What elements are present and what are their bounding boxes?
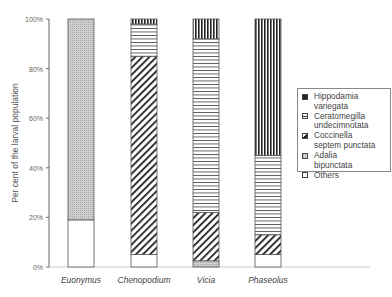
y-axis-title: Per cent of the larval population <box>10 83 20 203</box>
bar-segment <box>255 235 281 255</box>
bar-segment <box>193 212 219 260</box>
x-tick-label: Vicia <box>197 275 216 285</box>
legend-swatch-vertical-icon <box>302 94 308 100</box>
bar-segment <box>255 255 281 267</box>
y-tick-label: 100% <box>25 16 43 23</box>
legend-item: Others <box>302 171 388 181</box>
bar-vicia <box>193 19 219 267</box>
bar-euonymus <box>68 19 94 267</box>
x-tick-label: Phaseolus <box>248 275 288 285</box>
bar-segment <box>193 261 219 267</box>
legend-label: Ceratomegilla undecimnotata <box>314 112 368 131</box>
y-tick-label: 0% <box>33 264 43 271</box>
legend-item: Hippodamia variegata <box>302 92 388 111</box>
x-tick-label: Chenopodium <box>118 275 171 285</box>
legend-label: Adalia bipunctata <box>314 151 352 170</box>
bar-segment <box>255 19 281 155</box>
legend-label: Hippodamia variegata <box>314 92 358 111</box>
bar-segment <box>131 56 157 254</box>
bar-segment <box>255 155 281 234</box>
legend-swatch-horizontal-icon <box>302 113 308 119</box>
y-tick-label: 80% <box>29 66 43 73</box>
legend-item: Ceratomegilla undecimnotata <box>302 112 388 131</box>
bar-segment <box>131 255 157 267</box>
bar-chenopodium <box>131 19 157 267</box>
bar-segment <box>193 19 219 39</box>
x-tick-label: Euonymus <box>61 275 102 285</box>
y-tick-label: 60% <box>29 115 43 122</box>
legend-label: Others <box>314 171 339 181</box>
x-axis-labels: EuonymusChenopodiumViciaPhaseolus <box>61 275 289 285</box>
legend-item: Coccinella septem punctata <box>302 131 388 150</box>
legend-label: Coccinella septem punctata <box>314 131 375 150</box>
y-tick-label: 40% <box>29 165 43 172</box>
legend-swatch-dots-icon <box>302 153 308 159</box>
bar-segment <box>68 220 94 267</box>
bar-segment <box>131 19 157 24</box>
bar-phaseolus <box>255 19 281 267</box>
legend-swatch-white-icon <box>302 172 308 178</box>
legend-swatch-diagonal-icon <box>302 133 308 139</box>
bar-segment <box>68 19 94 220</box>
legend-item: Adalia bipunctata <box>302 151 388 170</box>
legend: Hippodamia variegataCeratomegilla undeci… <box>297 88 391 172</box>
y-tick-label: 20% <box>29 214 43 221</box>
bars <box>68 19 281 267</box>
bar-segment <box>131 24 157 56</box>
bar-segment <box>193 39 219 213</box>
